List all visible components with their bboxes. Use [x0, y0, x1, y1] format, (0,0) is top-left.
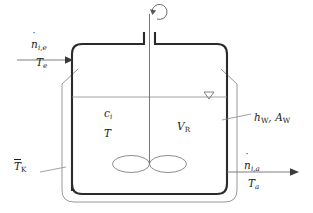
reactor-schematic-svg — [0, 0, 313, 213]
impeller-blade-right — [150, 156, 187, 173]
inlet-molar-flow-label: ni,e — [31, 39, 47, 50]
reactor-temperature-label: T — [104, 128, 111, 139]
vessel-wall-right — [155, 32, 227, 184]
concentration-label: ci — [104, 108, 112, 119]
outlet-arrow-head — [290, 168, 299, 176]
outlet-molar-flow-label: ni,a — [244, 160, 260, 171]
rotation-arrow-head — [150, 9, 156, 15]
vessel-wall-bottom — [72, 184, 227, 194]
reactor-volume-label: VR — [177, 121, 190, 132]
jacket-temperature-label: TK — [14, 161, 26, 172]
reactor-diagram: ni,e Te ni,a Ta hW, AW TK ci T VR — [0, 0, 313, 213]
inlet-temperature-label: Te — [36, 57, 47, 68]
outlet-temperature-label: Ta — [248, 178, 259, 189]
level-triangle-marker — [204, 92, 214, 99]
wall-heat-transfer-label: hW, AW — [254, 112, 290, 123]
impeller-blade-left — [113, 156, 150, 173]
